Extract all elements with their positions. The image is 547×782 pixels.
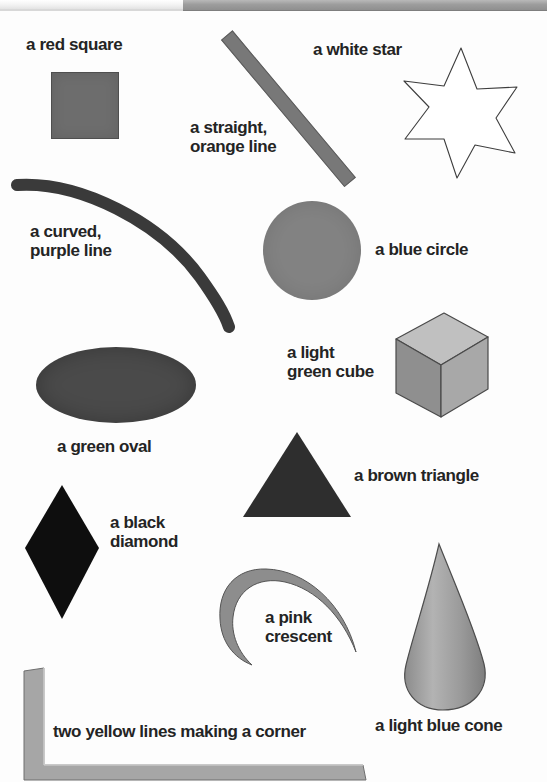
label-red-square: a red square [26, 35, 122, 54]
label-black-diamond-line2: diamond [110, 532, 178, 551]
label-white-star: a white star [313, 40, 402, 59]
label-green-oval: a green oval [57, 437, 151, 456]
shape-black-diamond [25, 485, 99, 619]
label-straight-orange-line-line1: a straight, [190, 118, 267, 137]
label-blue-circle: a blue circle [375, 240, 468, 259]
shape-light-blue-cone [398, 540, 494, 716]
scan-strip-right [183, 0, 547, 11]
label-yellow-corner: two yellow lines making a corner [53, 722, 306, 741]
shape-white-star [392, 44, 517, 179]
shape-light-green-cube [394, 311, 490, 419]
scan-edge [0, 9, 183, 11]
label-light-green-cube-line1: a light [287, 343, 334, 362]
shape-red-square [51, 72, 119, 139]
label-curved-purple-line-line1: a curved, [30, 222, 101, 241]
label-black-diamond-line1: a black [110, 513, 165, 532]
label-light-green-cube-line2: green cube [287, 362, 374, 381]
scan-strip-left [0, 0, 183, 9]
shape-brown-triangle [243, 432, 351, 517]
shape-blue-circle [263, 201, 361, 300]
shape-green-oval [36, 347, 196, 423]
label-curved-purple-line-line2: purple line [30, 241, 112, 260]
label-pink-crescent-line2: crescent [265, 627, 332, 646]
label-light-blue-cone: a light blue cone [375, 716, 502, 735]
label-straight-orange-line-line2: orange line [190, 137, 276, 156]
label-brown-triangle: a brown triangle [354, 466, 479, 485]
shape-vocabulary-page: a red square a straight, orange line a w… [0, 0, 547, 782]
label-pink-crescent-line1: a pink [265, 608, 312, 627]
